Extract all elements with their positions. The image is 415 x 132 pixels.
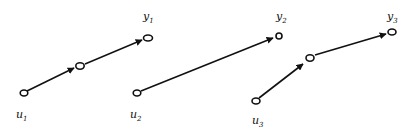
label-u2: u2	[130, 108, 142, 123]
node-u3	[252, 98, 260, 104]
node-intermediate-1	[76, 63, 84, 69]
panel-3: u3 y3	[252, 10, 398, 129]
panel-1: u1 y1	[16, 10, 154, 123]
edge-u1-to-mid	[27, 68, 74, 91]
panel-2: u2 y2	[130, 10, 287, 123]
edge-u2-to-y2	[141, 38, 273, 91]
node-intermediate-3	[306, 55, 314, 61]
node-u2	[133, 90, 141, 96]
edge-mid-to-y3	[315, 34, 386, 55]
label-u1: u1	[16, 108, 28, 123]
label-u3: u3	[252, 114, 264, 129]
node-y2	[276, 33, 282, 39]
node-u1	[20, 90, 28, 96]
label-y1: y1	[142, 10, 154, 25]
label-y3: y3	[386, 10, 398, 25]
node-y3	[388, 29, 396, 35]
edge-mid-to-y1	[85, 40, 142, 64]
label-y2: y2	[275, 10, 287, 25]
node-y1	[144, 35, 153, 41]
edge-u3-to-mid	[259, 64, 303, 98]
signal-flow-diagram: u1 y1 u2 y2 u3 y3	[0, 0, 415, 132]
